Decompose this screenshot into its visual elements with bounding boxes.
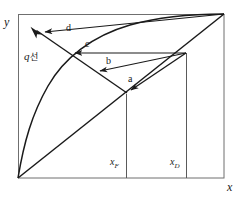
mccabe-thiele-figure: y x q선 a b c d xF xD: [0, 0, 241, 198]
arrow-label-c: c: [85, 39, 89, 49]
arrow-label-b: b: [106, 56, 111, 66]
y-axis-label: y: [4, 16, 9, 28]
q-line-label: q선: [24, 51, 38, 62]
arrow-label-d: d: [66, 23, 71, 33]
tick-label-xD-sub: D: [174, 162, 179, 170]
arrow-label-a: a: [128, 74, 132, 84]
operating-line-d: [45, 14, 224, 32]
tick-label-xF: xF: [110, 157, 119, 170]
x-axis-label: x: [227, 181, 232, 193]
figure-canvas: [0, 0, 241, 198]
q-line-suffix: 선: [30, 52, 38, 62]
tick-label-xD: xD: [170, 157, 180, 170]
tick-label-xF-sub: F: [114, 162, 118, 170]
